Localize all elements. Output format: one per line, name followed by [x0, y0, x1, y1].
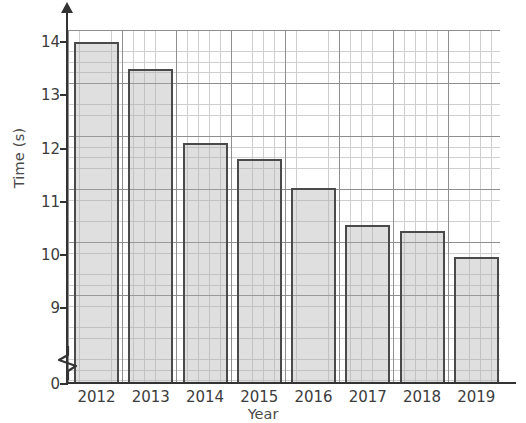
x-axis-tick-label: 2013	[121, 388, 181, 406]
x-axis-line	[66, 382, 516, 384]
x-axis-tick-label: 2016	[284, 388, 344, 406]
y-axis-tick-label: 11	[14, 193, 60, 211]
x-axis-tick-label: 2015	[229, 388, 289, 406]
y-axis-tick-label: 13	[14, 86, 60, 104]
y-axis-tick-mark	[60, 307, 68, 309]
y-axis-tick-label: 10	[14, 246, 60, 264]
bar-2016	[291, 188, 336, 384]
y-axis-tick-mark	[60, 201, 68, 203]
x-axis-tick-label: 2014	[175, 388, 235, 406]
bar-chart: Time (s) 091011121314 201220132014201520…	[0, 0, 526, 423]
x-axis-tick-label: 2018	[392, 388, 452, 406]
arrow-up-icon	[61, 2, 73, 13]
y-axis-tick-mark	[60, 41, 68, 43]
y-axis-line	[66, 10, 68, 384]
y-axis-tick-mark	[60, 383, 68, 385]
y-axis-tick-label: 14	[14, 33, 60, 51]
x-axis-title: Year	[0, 406, 526, 422]
plot-area	[68, 30, 500, 384]
y-axis-tick-label: 9	[14, 299, 60, 317]
y-axis-tick-mark	[60, 148, 68, 150]
y-axis-tick-label: 12	[14, 140, 60, 158]
bar-2012	[74, 42, 119, 384]
y-axis-tick-mark	[60, 254, 68, 256]
y-axis-tick-label: 0	[14, 375, 60, 393]
bar-2017	[345, 225, 390, 384]
bar-2015	[237, 159, 282, 384]
bar-2018	[400, 231, 445, 384]
bar-2013	[128, 69, 173, 384]
x-axis-tick-label: 2017	[338, 388, 398, 406]
y-axis-tick-mark	[60, 94, 68, 96]
x-axis-tick-label: 2019	[446, 388, 506, 406]
x-axis-tick-label: 2012	[67, 388, 127, 406]
bar-2014	[183, 143, 228, 384]
bar-2019	[454, 257, 499, 384]
